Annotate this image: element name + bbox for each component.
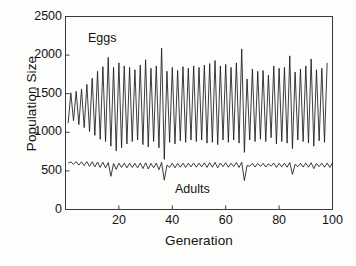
y-tick-label-1500: 1500 <box>4 86 62 100</box>
y-tick-label-2000: 2000 <box>4 47 62 61</box>
y-tick-label-group: 2500 2000 1500 1000 500 0 <box>0 0 62 266</box>
axis-ticks <box>66 17 333 210</box>
cut-off-caption <box>12 256 344 265</box>
y-tick-label-500: 500 <box>4 163 62 177</box>
series-annotation-adults: Adults <box>175 182 210 196</box>
axis-frame <box>66 17 333 210</box>
x-tick-label-40: 40 <box>149 213 195 227</box>
y-tick-label-2500: 2500 <box>4 9 62 23</box>
series-annotation-eggs: Eggs <box>88 31 117 45</box>
y-tick-label-1000: 1000 <box>4 124 62 138</box>
x-tick-label-100: 100 <box>310 213 356 227</box>
x-axis-title: Generation <box>65 233 333 248</box>
population-dynamics-chart: Population Size 2500 2000 1500 1000 500 … <box>0 0 356 266</box>
data-series-group <box>68 48 332 180</box>
x-tick-label-80: 80 <box>256 213 302 227</box>
x-tick-label-20: 20 <box>96 213 142 227</box>
y-tick-label-0: 0 <box>4 202 62 216</box>
x-tick-label-60: 60 <box>203 213 249 227</box>
